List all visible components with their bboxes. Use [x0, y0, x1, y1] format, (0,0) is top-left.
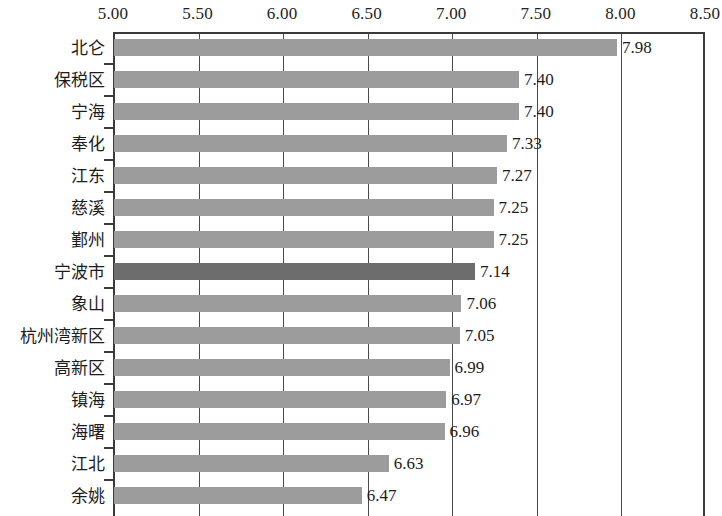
horizontal-bar-chart: 5.005.506.006.507.007.508.008.50 北仑7.98保… — [0, 0, 722, 516]
bar-value-label: 6.47 — [367, 480, 397, 512]
bar — [114, 423, 445, 440]
category-label: 杭州湾新区 — [20, 320, 105, 352]
bar-value-label: 6.99 — [455, 352, 485, 384]
category-label: 宁海 — [71, 96, 105, 128]
y-axis-tick-mark — [104, 479, 114, 481]
bar-highlighted — [114, 263, 475, 280]
bar — [114, 39, 617, 56]
y-axis-tick-mark — [104, 447, 114, 449]
x-axis-tick-labels: 5.005.506.006.507.007.508.008.50 — [0, 0, 722, 32]
chart-row: 江北6.63 — [0, 448, 722, 480]
y-axis-tick-mark — [104, 127, 114, 129]
y-axis-tick-mark — [104, 63, 114, 65]
category-label: 鄞州 — [71, 224, 105, 256]
bar — [114, 167, 497, 184]
y-axis-tick-mark — [104, 383, 114, 385]
x-axis-tick-label: 8.00 — [585, 3, 655, 25]
bar-value-label: 7.40 — [524, 64, 554, 96]
bar — [114, 199, 494, 216]
chart-row: 北仑7.98 — [0, 32, 722, 64]
bar — [114, 487, 362, 504]
category-label: 高新区 — [54, 352, 105, 384]
bar-value-label: 7.40 — [524, 96, 554, 128]
bar — [114, 135, 507, 152]
category-label: 象山 — [71, 288, 105, 320]
bar-value-label: 6.96 — [450, 416, 480, 448]
chart-row: 鄞州7.25 — [0, 224, 722, 256]
bar — [114, 103, 519, 120]
bar — [114, 391, 446, 408]
bar-value-label: 6.97 — [451, 384, 481, 416]
bar — [114, 359, 450, 376]
x-axis-tick-label: 5.50 — [163, 3, 233, 25]
chart-row: 保税区7.40 — [0, 64, 722, 96]
bar-value-label: 7.33 — [512, 128, 542, 160]
category-label: 镇海 — [71, 384, 105, 416]
chart-row: 奉化7.33 — [0, 128, 722, 160]
chart-row: 高新区6.99 — [0, 352, 722, 384]
bar-value-label: 7.25 — [499, 224, 529, 256]
bar-value-label: 7.25 — [499, 192, 529, 224]
chart-row: 杭州湾新区7.05 — [0, 320, 722, 352]
bar-value-label: 7.98 — [622, 32, 652, 64]
bar-value-label: 6.63 — [394, 448, 424, 480]
bar — [114, 455, 389, 472]
chart-rows: 北仑7.98保税区7.40宁海7.40奉化7.33江东7.27慈溪7.25鄞州7… — [0, 32, 722, 516]
y-axis-tick-mark — [104, 159, 114, 161]
category-label: 保税区 — [54, 64, 105, 96]
x-axis-tick-label: 7.50 — [501, 3, 571, 25]
chart-row: 慈溪7.25 — [0, 192, 722, 224]
y-axis-tick-mark — [104, 319, 114, 321]
chart-row: 江东7.27 — [0, 160, 722, 192]
y-axis-tick-mark — [104, 351, 114, 353]
chart-row: 余姚6.47 — [0, 480, 722, 512]
y-axis-tick-mark — [104, 191, 114, 193]
category-label: 江东 — [71, 160, 105, 192]
x-axis-tick-label: 6.50 — [332, 3, 402, 25]
y-axis-tick-mark — [104, 255, 114, 257]
x-axis-tick-label: 8.50 — [670, 3, 722, 25]
chart-row: 镇海6.97 — [0, 384, 722, 416]
category-label: 余姚 — [71, 480, 105, 512]
category-label: 北仑 — [71, 32, 105, 64]
bar-value-label: 7.06 — [466, 288, 496, 320]
y-axis-tick-mark — [104, 415, 114, 417]
x-axis-tick-label: 5.00 — [78, 3, 148, 25]
chart-row: 象山7.06 — [0, 288, 722, 320]
category-label: 江北 — [71, 448, 105, 480]
chart-row: 宁海7.40 — [0, 96, 722, 128]
y-axis-tick-mark — [104, 223, 114, 225]
bar-value-label: 7.05 — [465, 320, 495, 352]
chart-row: 宁波市7.14 — [0, 256, 722, 288]
bar — [114, 71, 519, 88]
category-label: 海曙 — [71, 416, 105, 448]
bar — [114, 231, 494, 248]
bar-value-label: 7.14 — [480, 256, 510, 288]
category-label: 宁波市 — [54, 256, 105, 288]
category-label: 慈溪 — [71, 192, 105, 224]
category-label: 奉化 — [71, 128, 105, 160]
x-axis-tick-label: 7.00 — [416, 3, 486, 25]
y-axis-tick-mark — [104, 287, 114, 289]
bar — [114, 327, 460, 344]
chart-row: 海曙6.96 — [0, 416, 722, 448]
y-axis-tick-mark — [104, 95, 114, 97]
bar — [114, 295, 461, 312]
x-axis-tick-label: 6.00 — [247, 3, 317, 25]
bar-value-label: 7.27 — [502, 160, 532, 192]
